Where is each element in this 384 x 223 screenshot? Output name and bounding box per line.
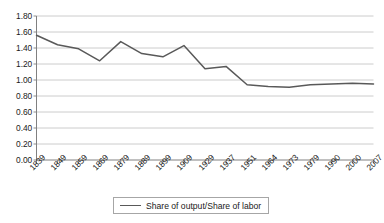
x-axis-tick-label: 1879 bbox=[112, 153, 131, 172]
x-axis-tick-label: 1937 bbox=[218, 153, 237, 172]
legend-line-marker bbox=[120, 205, 141, 206]
x-axis-tick-label: 2007 bbox=[365, 153, 384, 172]
x-axis-tick-label: 1990 bbox=[323, 153, 342, 172]
x-axis-tick-label: 1849 bbox=[49, 153, 68, 172]
chart-legend: Share of output/Share of labor bbox=[113, 197, 269, 214]
x-axis-tick-labels: 1839184918591869187918891899190919291937… bbox=[0, 0, 384, 223]
x-axis-tick-label: 1951 bbox=[239, 153, 258, 172]
x-axis-tick-label: 1869 bbox=[91, 153, 110, 172]
x-axis-tick-label: 1839 bbox=[28, 153, 47, 172]
x-axis-tick-label: 1899 bbox=[154, 153, 173, 172]
x-axis-tick-label: 1929 bbox=[197, 153, 216, 172]
x-axis-tick-label: 1909 bbox=[175, 153, 194, 172]
legend-label: Share of output/Share of labor bbox=[146, 201, 261, 211]
line-chart-figure: 1.801.601.401.201.000.800.600.400.200.00… bbox=[0, 0, 384, 223]
x-axis-tick-label: 1889 bbox=[133, 153, 152, 172]
x-axis-tick-label: 1973 bbox=[281, 153, 300, 172]
x-axis-tick-label: 1859 bbox=[70, 153, 89, 172]
x-axis-tick-label: 1964 bbox=[260, 153, 279, 172]
x-axis-tick-label: 1979 bbox=[302, 153, 321, 172]
x-axis-tick-label: 2000 bbox=[344, 153, 363, 172]
